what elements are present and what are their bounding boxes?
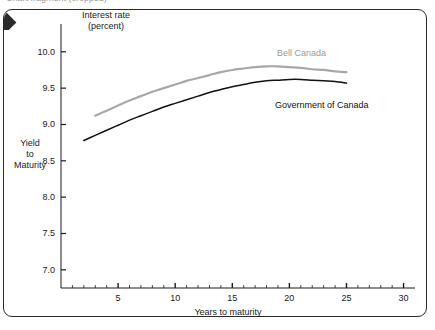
y-tick-label: 7.0 — [21, 265, 55, 275]
y-tick-label: 9.0 — [21, 119, 55, 129]
series-label-bell-canada: Bell Canada — [277, 48, 326, 58]
series-label-government-of-canada: Government of Canada — [275, 100, 369, 110]
y-tick-label: 8.5 — [21, 156, 55, 166]
x-tick-label: 10 — [163, 293, 187, 303]
x-tick-label: 20 — [277, 293, 301, 303]
x-tick-label: 5 — [106, 293, 130, 303]
y-tick-label: 7.5 — [21, 228, 55, 238]
x-tick-label: 15 — [220, 293, 244, 303]
x-axis-title: Years to maturity — [168, 307, 288, 318]
plot-area — [0, 0, 435, 330]
yield-curve-chart: Chart fragment (cropped) Interest rate (… — [0, 0, 435, 330]
x-tick-label: 30 — [392, 293, 416, 303]
plot-svg — [0, 0, 435, 330]
y-tick-label: 8.0 — [21, 192, 55, 202]
y-tick-label: 9.5 — [21, 83, 55, 93]
y-tick-label: 10.0 — [21, 47, 55, 57]
x-tick-label: 25 — [334, 293, 358, 303]
